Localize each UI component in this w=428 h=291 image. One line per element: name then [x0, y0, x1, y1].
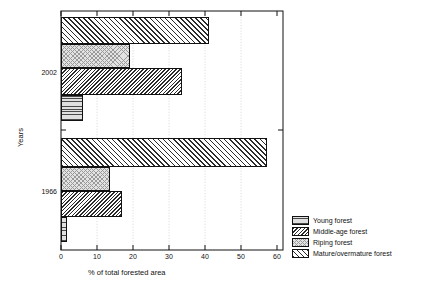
x-tick-label-0: 0: [59, 253, 63, 260]
x-tick-label-20: 20: [129, 253, 137, 260]
x-axis-title: % of total forested area: [88, 268, 166, 277]
chart-figure: 0 10 20 30 40 50 60 2002 1966 % of total…: [0, 0, 428, 291]
legend-item-middle-age-forest: Middle-age forest: [292, 226, 392, 236]
x-tick-label-50: 50: [237, 253, 245, 260]
legend-swatch-riping-forest: [292, 238, 309, 247]
bar-1966-young: [61, 217, 67, 242]
x-tick-label-30: 30: [165, 253, 173, 260]
legend-label-middle-age-forest: Middle-age forest: [313, 227, 367, 236]
y-tick-label-2002: 2002: [36, 69, 57, 76]
y-tick-label-1966: 1966: [36, 188, 57, 195]
bar-2002-young: [61, 95, 83, 121]
y-axis-title: Years: [16, 108, 25, 168]
x-tick-label-40: 40: [201, 253, 209, 260]
legend-label-mature-overmature-forest: Mature/overmature forest: [313, 249, 392, 258]
bar-2002-mature-overmature: [61, 17, 209, 44]
legend-swatch-mature-overmature-forest: [292, 249, 309, 258]
legend-label-young-forest: Young forest: [313, 216, 352, 225]
x-tick-label-60: 60: [273, 253, 281, 260]
chart-legend: Young forest Middle-age forest Riping fo…: [292, 215, 392, 258]
bar-1966-riping: [61, 167, 110, 191]
legend-label-riping-forest: Riping forest: [313, 238, 352, 247]
bar-2002-middle-age: [61, 68, 182, 95]
bar-1966-middle-age: [61, 191, 122, 217]
legend-item-young-forest: Young forest: [292, 215, 392, 225]
bar-2002-riping: [61, 44, 130, 68]
legend-swatch-middle-age-forest: [292, 227, 309, 236]
bar-1966-mature-overmature: [61, 138, 267, 167]
legend-swatch-young-forest: [292, 216, 309, 225]
x-tick-label-10: 10: [93, 253, 101, 260]
legend-item-riping-forest: Riping forest: [292, 237, 392, 247]
legend-item-mature-overmature-forest: Mature/overmature forest: [292, 248, 392, 258]
